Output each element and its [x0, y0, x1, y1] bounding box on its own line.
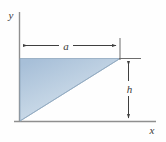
figure-container: a h y x — [0, 0, 166, 142]
triangle-diagram: a h y x — [0, 0, 166, 142]
dimension-a-group: a — [23, 38, 120, 60]
x-axis-label: x — [149, 124, 155, 136]
dimension-h-label: h — [127, 83, 133, 95]
triangle-shape — [20, 59, 120, 122]
y-axis-label: y — [8, 9, 14, 21]
dimension-h-group: h — [119, 59, 141, 119]
dimension-a-label: a — [63, 40, 69, 52]
